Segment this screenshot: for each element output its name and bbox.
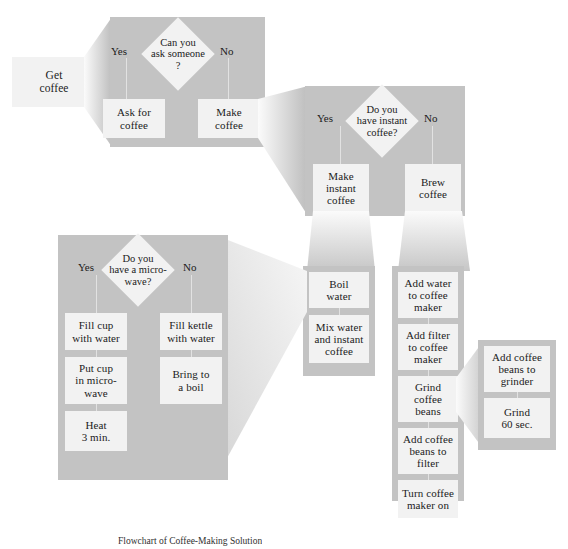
box-ask-for-coffee: Ask forcoffee (103, 99, 165, 138)
box-heat-3-min: Heat3 min. (65, 411, 127, 451)
connector-microwave-no-1 (191, 350, 192, 357)
funnel-level1-to-level2 (258, 86, 308, 216)
connector-microwave-yes-2 (96, 404, 97, 411)
box-bring-to-a-boil: Bring toa boil (160, 357, 222, 404)
box-put-cup-in-microwave: Put cupin micro-wave (65, 357, 127, 404)
box-grind-coffee-beans: Grindcoffeebeans (398, 376, 458, 422)
box-fill-cup-with-water: Fill cupwith water (65, 313, 127, 350)
connector-level2-yes (340, 126, 341, 164)
box-turn-coffee-maker-on: Turn coffeemaker on (398, 480, 458, 518)
box-boil-water: Boilwater (309, 272, 369, 308)
connector-level2-no (432, 126, 433, 164)
branch-label-level2-yes: Yes (317, 112, 333, 124)
branch-label-microwave-no: No (183, 261, 196, 273)
connector-microwave-yes (96, 275, 97, 313)
start-box-label: Getcoffee (37, 69, 70, 95)
box-brew-coffee: Brewcoffee (405, 164, 461, 212)
box-add-coffee-beans-to-grinder: Add coffeebeans togrinder (484, 346, 550, 392)
funnel-instant-down (307, 211, 375, 271)
funnel-brew-down (398, 211, 470, 271)
box-add-coffee-beans-to-filter: Add coffeebeans tofilter (398, 428, 458, 474)
connector-level1-no (228, 58, 229, 99)
funnel-boil-to-microwave (215, 235, 307, 480)
box-mix-water-instant: Mix waterand instantcoffee (309, 315, 369, 363)
box-grind-60-sec: Grind60 sec. (484, 398, 550, 438)
box-make-instant-coffee: Makeinstantcoffee (313, 164, 369, 212)
connector-microwave-yes-1 (96, 350, 97, 357)
box-add-filter-to-coffee-maker: Add filterto coffeemaker (398, 324, 458, 370)
branch-label-level2-no: No (424, 112, 437, 124)
figure-caption: Flowchart of Coffee-Making Solution (118, 536, 262, 549)
connector-instant-1 (339, 308, 340, 315)
connector-microwave-no (191, 275, 192, 313)
box-add-water-to-coffee-maker: Add waterto coffeemaker (398, 272, 458, 318)
box-make-coffee: Makecoffee (198, 99, 260, 138)
branch-label-level1-yes: Yes (111, 45, 127, 57)
branch-label-microwave-yes: Yes (78, 261, 94, 273)
flowchart-figure: Getcoffee Can youask someone? Yes No Ask… (0, 0, 568, 549)
connector-level1-yes (126, 58, 127, 99)
branch-label-level1-no: No (220, 45, 233, 57)
box-fill-kettle-with-water: Fill kettlewith water (160, 313, 222, 350)
